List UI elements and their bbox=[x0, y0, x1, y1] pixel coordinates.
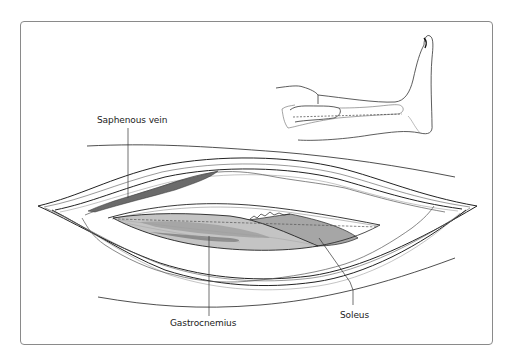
anatomy-illustration bbox=[0, 0, 512, 360]
calf-muscles bbox=[108, 204, 380, 251]
incision-upper bbox=[38, 158, 477, 212]
label-soleus: Soleus bbox=[340, 310, 369, 320]
leg-inset bbox=[276, 35, 433, 140]
leader-soleus bbox=[319, 238, 353, 305]
saphenous-vein bbox=[88, 171, 218, 212]
label-saphenous-vein: Saphenous vein bbox=[97, 115, 167, 125]
label-gastrocnemius: Gastrocnemius bbox=[170, 318, 236, 328]
